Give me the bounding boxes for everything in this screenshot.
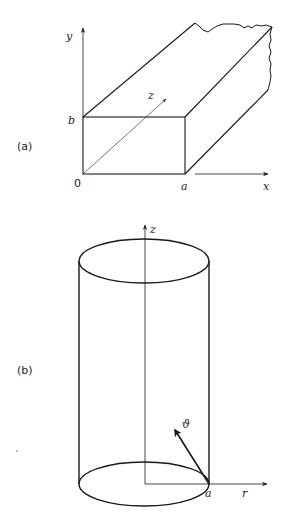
waveguide-torn-top (195, 23, 272, 32)
waveguide-edge-top-left (83, 23, 195, 117)
x-axis-label: x (263, 180, 270, 193)
z-axis-cyl-label: z (149, 223, 156, 236)
panel-b: z ϑ a r (b) (16, 223, 267, 506)
waveguide-torn-right (268, 27, 272, 90)
cylinder-top-ellipse (79, 239, 209, 283)
radius-label: a (205, 487, 212, 500)
theta-arrow (175, 430, 209, 484)
panel-a-label: (a) (17, 140, 32, 153)
panel-b-label: (b) (17, 364, 33, 377)
waveguide-front-face (83, 117, 185, 174)
waveguide-edge-top-right (185, 27, 272, 117)
panel-a: y z x b 0 a (a) (17, 23, 272, 193)
waveguide-edge-bottom-right (185, 90, 268, 174)
height-label: b (68, 114, 75, 127)
stray-dot (16, 450, 18, 452)
z-axis (83, 99, 166, 174)
origin-label: 0 (74, 177, 81, 190)
theta-label: ϑ (182, 418, 190, 431)
figure-canvas: y z x b 0 a (a) z ϑ a r (b) (0, 0, 282, 517)
width-label: a (181, 180, 188, 193)
r-axis-label: r (242, 487, 248, 500)
z-axis-label: z (147, 89, 154, 102)
y-axis-label: y (65, 30, 73, 43)
